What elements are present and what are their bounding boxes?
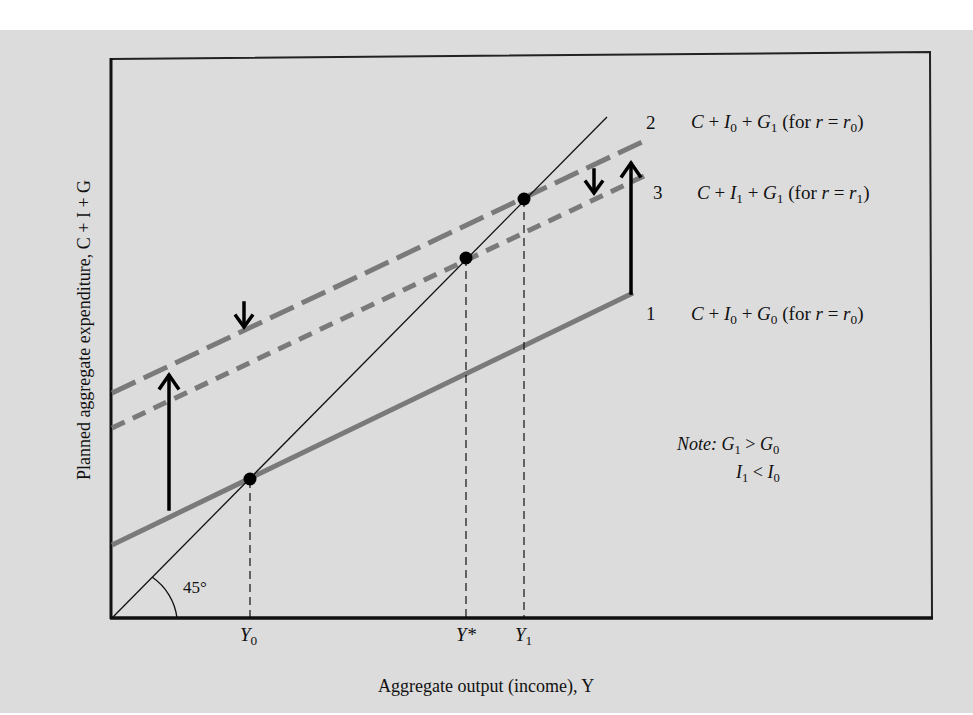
tick-y0-sub: 0 [251,633,258,648]
down-arrow-icon [586,170,602,193]
x-axis-label: Aggregate output (income), Y [378,676,594,697]
curve-3-number: 3 [653,182,663,204]
45-degree-arc [152,577,177,618]
curve-1-label: C + I0 + G0 (for r = r0) [691,303,864,328]
equilibrium-dot-y1 [518,193,531,206]
curve-1-number: 1 [646,303,656,325]
tick-ystar: Y* [456,624,476,646]
equilibrium-dot-ystar [460,252,473,265]
plot-frame-top-right [110,52,932,617]
note-line-2: I1 < I0 [677,461,780,489]
chart-plot [0,0,973,715]
45-degree-line [112,117,607,618]
curve-2-long-dash [112,141,644,393]
angle-label: 45° [183,578,207,598]
up-arrow-icon [160,375,178,509]
tick-y0-text: Y [240,624,251,645]
tick-y1-text: Y [515,624,526,645]
y-axis-label: Planned aggregate expenditure, C + I + G [74,180,95,480]
x-axis-label-text: Aggregate output (income), Y [378,676,594,696]
note-annotation: Note: G1 > G0 I1 < I0 [677,433,780,489]
up-arrow-icon [622,163,640,293]
curve-1-solid [112,293,633,545]
tick-y1: Y1 [515,624,532,649]
curve-3-short-dash [112,176,644,428]
y-axis-label-text: Planned aggregate expenditure, C + I + G [74,180,94,480]
down-arrow-icon [236,303,252,327]
curve-2-number: 2 [646,112,656,134]
equilibrium-dot-y0 [244,473,257,486]
note-line-1: Note: G1 > G0 [677,433,780,461]
tick-y0: Y0 [240,624,257,649]
tick-y1-sub: 1 [526,633,533,648]
curve-3-label: C + I1 + G1 (for r = r1) [697,182,870,207]
note-prefix: Note: [677,434,717,454]
curve-2-label: C + I0 + G1 (for r = r0) [691,111,864,136]
